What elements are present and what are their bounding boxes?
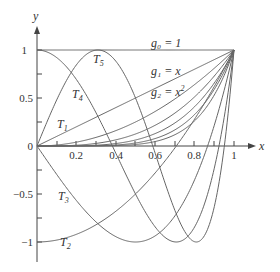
label-T3: T3 (58, 189, 69, 205)
label-T1: T1 (57, 117, 68, 133)
y-axis-arrow-icon (34, 26, 40, 34)
function-plot: y x 1 0.5 0 −0.5 −1 0.2 0.4 0.6 0.8 1 g₀… (0, 0, 280, 272)
x-axis-arrow-icon (248, 143, 256, 149)
x-tick-0.2: 0.2 (69, 149, 83, 161)
y-tick-0: 0 (28, 140, 34, 152)
label-T5: T5 (93, 52, 104, 68)
label-g2: g₂ = x2 (151, 84, 185, 99)
label-T4: T4 (72, 87, 83, 103)
y-tick-neg1: −1 (21, 236, 33, 248)
x-tick-0.4: 0.4 (109, 149, 123, 161)
x-axis-label: x (258, 139, 265, 153)
y-tick-1: 1 (22, 44, 28, 56)
y-axis-label: y (32, 9, 39, 23)
label-g1: g₁ = x (151, 64, 181, 78)
y-tick-0.5: 0.5 (19, 92, 33, 104)
x-tick-0.6: 0.6 (148, 149, 162, 161)
x-tick-0.8: 0.8 (187, 149, 201, 161)
y-tick-neg0.5: −0.5 (13, 188, 33, 200)
label-g0: g₀ = 1 (151, 36, 181, 50)
x-tick-1: 1 (231, 149, 237, 161)
